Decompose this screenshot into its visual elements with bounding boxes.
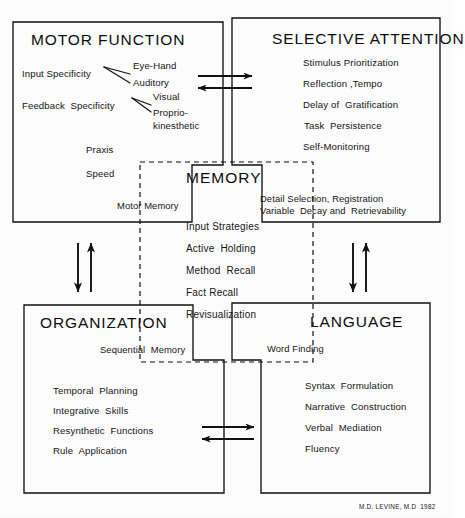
motor-function-branch-eye-hand: Eye-Hand (133, 61, 176, 71)
selective-attention-item-0: Stimulus Prioritization (303, 58, 399, 68)
motor-function-branch-kinesthetic: kinesthetic (153, 121, 199, 131)
word-finding-bridge-label: Word Finding (267, 344, 324, 354)
selective-attention-item-2: Delay of Gratification (303, 100, 398, 110)
language-item-0: Syntax Formulation (305, 381, 393, 391)
detail-selection-bridge-label-line2: Variable Decay and Retrievability (260, 206, 406, 216)
motor-function-item-speed: Speed (86, 169, 115, 179)
motor-function-item-praxis: Praxis (86, 145, 114, 155)
sequential-memory-bridge-label: Sequential Memory (100, 345, 185, 355)
author-credit: M.D. LEVINE, M.D 1982 (359, 504, 436, 511)
organization-box (24, 305, 224, 493)
branch-feedback-visual (132, 98, 151, 105)
language-item-2: Verbal Mediation (305, 423, 382, 433)
memory-item-2: Method Recall (186, 266, 256, 277)
organization-item-0: Temporal Planning (53, 386, 138, 396)
right-bidirectional-arrow (353, 243, 366, 292)
language-title: LANGUAGE (310, 314, 403, 330)
language-item-1: Narrative Construction (305, 402, 407, 412)
motor-function-title: MOTOR FUNCTION (31, 32, 185, 48)
branch-input-eye-hand (104, 67, 130, 74)
organization-item-2: Resynthetic Functions (53, 426, 153, 436)
language-box (232, 303, 430, 493)
language-item-3: Fluency (305, 444, 340, 454)
motor-function-branch-visual: Visual (153, 92, 180, 102)
branch-input-auditory (104, 67, 130, 83)
memory-item-4: Revisualization (186, 310, 256, 321)
memory-title: MEMORY (186, 170, 261, 186)
selective-attention-item-1: Reflection ,Tempo (303, 79, 382, 89)
memory-box-dashed (140, 162, 313, 362)
branch-feedback-proprio (132, 98, 151, 112)
motor-function-branch-label-feedback-specificity: Feedback Specificity (22, 101, 115, 111)
selective-attention-item-4: Self-Monitoring (303, 142, 370, 152)
memory-item-3: Fact Recall (186, 288, 238, 299)
motor-function-branch-proprio: Proprio- (153, 108, 188, 118)
organization-title: ORGANIZATION (40, 315, 168, 331)
memory-item-1: Active Holding (186, 244, 256, 255)
organization-item-3: Rule Application (53, 446, 127, 456)
memory-item-0: Input Strategies (186, 222, 259, 233)
left-bidirectional-arrow (78, 243, 91, 292)
top-bidirectional-arrow (198, 76, 252, 88)
motor-function-branch-label-input-specificity: Input Specificity (22, 69, 91, 79)
organization-item-1: Integrative Skills (53, 406, 128, 416)
detail-selection-bridge-label-line1: Detail Selection, Registration (260, 194, 383, 204)
motor-function-branch-auditory: Auditory (133, 78, 169, 88)
motor-memory-bridge-label: Motor Memory (117, 201, 179, 211)
selective-attention-item-3: Task Persistence (304, 121, 382, 131)
selective-attention-title: SELECTIVE ATTENTION (272, 31, 465, 47)
bottom-bidirectional-arrow (202, 427, 254, 439)
